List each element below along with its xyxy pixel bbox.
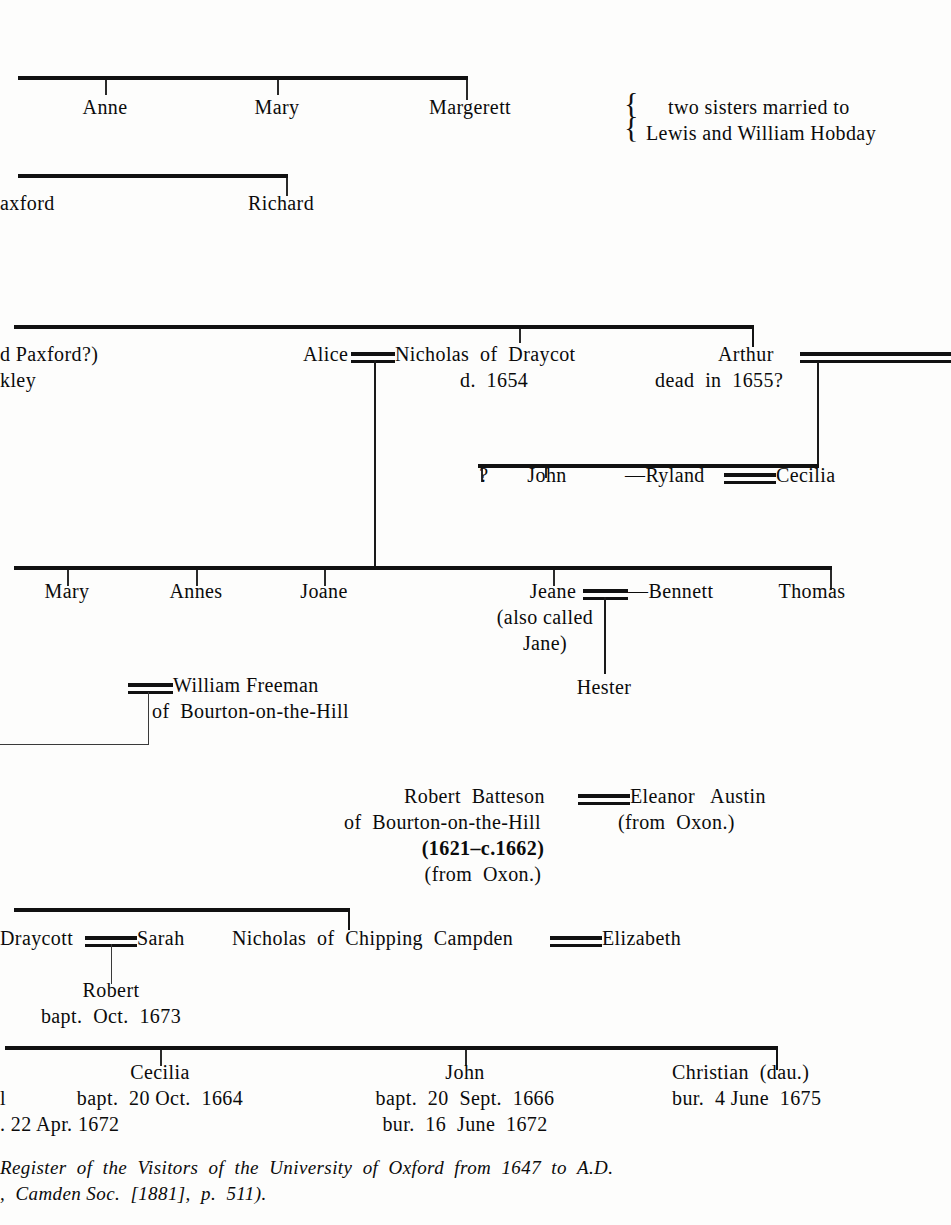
person-axford-cut: axford [0, 190, 55, 216]
marriage-bar-nicholas-elizabeth [550, 936, 602, 947]
person-richard: Richard [248, 190, 314, 216]
person-robert-bapt: bapt. Oct. 1673 [41, 1003, 181, 1029]
sibling-rule-gen4 [14, 566, 832, 570]
annotation-line2: Lewis and William Hobday [646, 120, 876, 146]
sibling-rule-gen6 [5, 1046, 778, 1050]
person-bennett: —Bennett [628, 578, 713, 604]
person-gen6-left-cut-line1: l [0, 1085, 6, 1111]
sibling-tick-mary [277, 80, 279, 95]
person-margerett: Margerett [429, 94, 511, 120]
person-robert-gen5: Robert [83, 977, 140, 1003]
person-paxford-cut-line2: kley [0, 367, 36, 393]
marriage-bar-alice-nicholas [351, 352, 395, 363]
person-mary-gen4: Mary [45, 578, 90, 604]
descent-line-alice [374, 360, 376, 568]
person-william-freeman: William Freeman [173, 672, 319, 698]
annotation-line1: two sisters married to [668, 94, 850, 120]
person-arthur: Arthur [718, 341, 774, 367]
descent-line-jeane-hester [604, 597, 606, 674]
sibling-rule-gen5 [14, 908, 350, 912]
person-hester: Hester [577, 674, 632, 700]
person-elizabeth: Elizabeth [602, 925, 681, 951]
person-paxford-cut-line1: d Paxford?) [0, 341, 98, 367]
person-annes: Annes [169, 578, 222, 604]
person-anne: Anne [83, 94, 128, 120]
person-unknown-child: ? [479, 462, 488, 488]
marriage-bar-arthur [800, 352, 951, 363]
sibling-rule-gen1 [18, 76, 468, 80]
person-jeane: Jeane [530, 578, 576, 604]
sibling-tick-anne [105, 80, 107, 95]
person-john-bur: bur. 16 June 1672 [382, 1111, 547, 1137]
person-ryland: —Ryland [625, 462, 705, 488]
person-sarah: Sarah [137, 925, 185, 951]
person-batteson-dates: (1621–c.1662) [422, 835, 544, 861]
person-nicholas-campden: Nicholas of Chipping Campden [232, 925, 513, 951]
person-joane: Joane [300, 578, 348, 604]
person-batteson-residence: of Bourton-on-the-Hill [344, 809, 541, 835]
person-draycott: Draycott [0, 925, 73, 951]
footnote-line2: , Camden Soc. [1881], p. 511). [0, 1181, 267, 1207]
marriage-bar-freeman [128, 683, 173, 694]
footnote-line1: Register of the Visitors of the Universi… [0, 1155, 613, 1181]
person-christian-bur: bur. 4 June 1675 [672, 1085, 821, 1111]
descent-line-freeman [148, 692, 149, 745]
person-john-gen6: John [445, 1059, 484, 1085]
person-cecilia-bapt: bapt. 20 Oct. 1664 [77, 1085, 243, 1111]
person-eleanor-austin: Eleanor Austin [630, 783, 766, 809]
sibling-rule-gen3 [14, 325, 754, 329]
person-austin-origin: (from Oxon.) [618, 809, 735, 835]
person-gen6-left-cut-line2: . 22 Apr. 1672 [0, 1111, 120, 1137]
sibling-rule-gen2 [18, 174, 288, 178]
person-john-gen3b: John [527, 462, 566, 488]
person-arthur-death-note: dead in 1655? [655, 367, 783, 393]
person-jeane-alias-line1: (also called [497, 604, 593, 630]
person-mary-gen1: Mary [255, 94, 300, 120]
person-nicholas-death-note: d. 1654 [460, 367, 528, 393]
marriage-bar-batteson-austin [578, 794, 630, 805]
person-christian: Christian (dau.) [672, 1059, 809, 1085]
connector-rule-freeman [0, 744, 149, 745]
descent-line-arthur [817, 362, 819, 468]
marriage-bar-ryland-cecilia [724, 473, 776, 484]
person-john-bapt: bapt. 20 Sept. 1666 [376, 1085, 555, 1111]
person-thomas: Thomas [779, 578, 846, 604]
person-cecilia-gen3b: Cecilia [776, 462, 835, 488]
person-batteson-origin: (from Oxon.) [425, 861, 542, 887]
person-cecilia-gen6: Cecilia [130, 1059, 189, 1085]
person-nicholas-draycot: Nicholas of Draycot [395, 341, 576, 367]
annotation-brace-icon-lower: { [624, 114, 638, 139]
person-robert-batteson: Robert Batteson [404, 783, 545, 809]
pedigree-chart: Anne Mary Margerett { { two sisters marr… [0, 0, 951, 1225]
person-freeman-residence: of Bourton-on-the-Hill [152, 698, 349, 724]
person-alice: Alice [303, 341, 348, 367]
person-jeane-alias-line2: Jane) [523, 630, 567, 656]
